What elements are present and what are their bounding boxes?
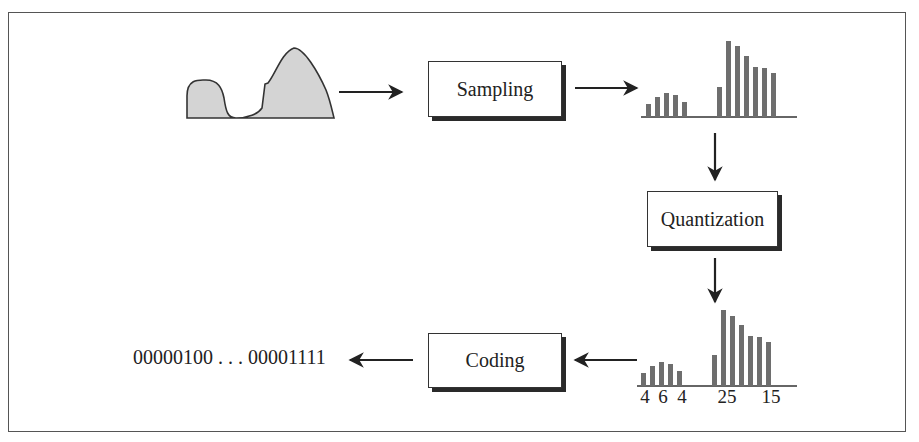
histogram-bar [766,342,771,386]
histogram-bar [650,366,655,386]
histogram-bar [744,56,749,117]
histogram-bar [726,41,731,117]
sampling-box: Sampling [428,61,562,117]
quantized-value-label: 4 [677,386,687,408]
quantization-box: Quantization [647,191,778,247]
histogram-bar [659,362,664,386]
coding-label: Coding [466,349,525,372]
coding-box: Coding [428,333,562,388]
histogram-bar [682,102,687,117]
analog-signal-shape [187,48,334,118]
histogram-bar [712,355,717,386]
histogram-bar [641,373,646,386]
quantized-value-label: 6 [658,386,668,408]
histogram-bar [655,97,660,117]
quantization-label: Quantization [661,208,764,231]
histogram-bar [721,310,726,386]
histogram-bar [673,95,678,117]
histogram-bar [753,67,758,117]
histogram-bar [717,87,722,117]
histogram-bar [757,337,762,386]
quantized-value-label: 4 [640,386,650,408]
binary-output-text: 00000100 . . . 00001111 [133,346,326,369]
histogram-bar [730,316,735,386]
histogram-bar [664,93,669,117]
histogram-bar [735,46,740,117]
quantized-value-label: 15 [762,386,781,408]
histogram-bar [762,68,767,117]
histogram-bar [739,325,744,386]
histogram-bar [646,104,651,117]
sampling-label: Sampling [457,78,534,101]
quantized-value-label: 25 [718,386,737,408]
histogram-bar [771,73,776,117]
histogram-bar [748,336,753,386]
quantized-histogram [637,310,797,386]
histogram-bar [668,364,673,386]
histogram-bar [677,371,682,386]
sampled-histogram [641,41,797,117]
